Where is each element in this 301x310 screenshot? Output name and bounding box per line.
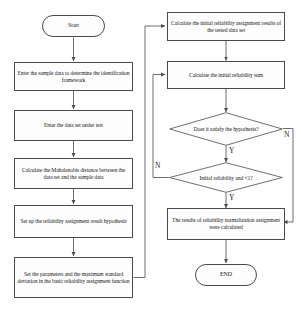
- node-mahalanobis-distance[interactable]: Calculate the Mahalanobis distance betwe…: [14, 158, 133, 189]
- node-decision-initial-reliability-label: Initial reliability and <1?: [169, 162, 283, 193]
- node-enter-sample-data[interactable]: Enter the sample data to determine the i…: [14, 62, 133, 91]
- branch-label-hypothesis-yes: Y: [229, 146, 234, 155]
- node-setup-hypothesis-label: Set up the reliability assignment result…: [20, 218, 126, 225]
- node-decision-satisfy-hypothesis[interactable]: Does it satisfy the hypothesis?: [169, 112, 283, 146]
- node-mahalanobis-distance-label: Calculate the Mahalanobis distance betwe…: [17, 167, 130, 180]
- node-start-label: Start: [68, 22, 79, 29]
- edge-parameters-to-initial-assignment: [134, 26, 166, 278]
- node-initial-reliability-assignment-label: Calculate the initial reliability assign…: [170, 20, 282, 33]
- node-end[interactable]: END: [195, 264, 257, 286]
- node-enter-data-set-label: Enter the data set under test: [44, 122, 103, 129]
- branch-label-reliability-no: N: [155, 161, 160, 170]
- node-decision-initial-reliability[interactable]: Initial reliability and <1?: [169, 162, 283, 193]
- node-initial-reliability-assignment[interactable]: Calculate the initial reliability assign…: [167, 12, 285, 41]
- branch-label-reliability-yes: Y: [229, 193, 234, 202]
- node-setup-hypothesis[interactable]: Set up the reliability assignment result…: [14, 205, 133, 238]
- node-decision-satisfy-hypothesis-label: Does it satisfy the hypothesis?: [169, 112, 283, 146]
- node-end-label: END: [220, 271, 232, 278]
- node-normalization-results-label: The results of reliability normalization…: [170, 217, 282, 230]
- flowchart-canvas: Start Enter the sample data to determine…: [0, 0, 301, 310]
- node-enter-sample-data-label: Enter the sample data to determine the i…: [17, 70, 130, 83]
- node-initial-reliability-sum-label: Calculate the initial reliability sum: [189, 72, 263, 79]
- node-set-parameters-label: Set the parameters and the maximum stand…: [17, 271, 130, 284]
- node-initial-reliability-sum[interactable]: Calculate the initial reliability sum: [167, 61, 285, 89]
- node-set-parameters[interactable]: Set the parameters and the maximum stand…: [14, 257, 133, 298]
- branch-label-hypothesis-no: N: [284, 130, 289, 139]
- node-start[interactable]: Start: [42, 15, 105, 37]
- node-normalization-results[interactable]: The results of reliability normalization…: [167, 208, 285, 240]
- node-enter-data-set[interactable]: Enter the data set under test: [14, 110, 133, 141]
